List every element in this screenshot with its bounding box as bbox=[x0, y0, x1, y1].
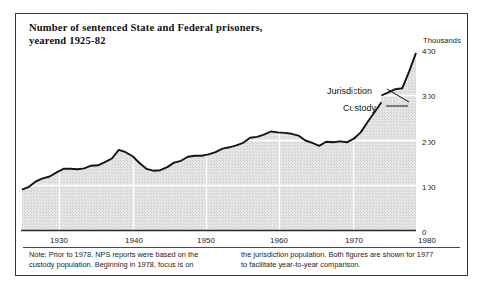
chart-plot-svg bbox=[16, 14, 469, 277]
chart-note-col-2: the jurisdiction population. Both figure… bbox=[241, 250, 437, 269]
chart-figure: Number of sentenced State and Federal pr… bbox=[15, 13, 468, 276]
chart-note: Note: Prior to 1978, NPS reports were ba… bbox=[29, 250, 449, 269]
note-divider bbox=[23, 247, 460, 248]
area-fill bbox=[22, 53, 416, 231]
chart-note-col-1: Note: Prior to 1978, NPS reports were ba… bbox=[29, 250, 225, 269]
